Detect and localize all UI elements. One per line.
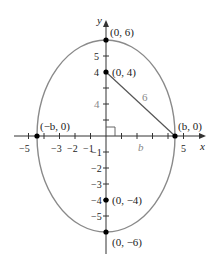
x-axis-label: x — [199, 140, 205, 152]
vertical-leg-label: 4 — [94, 98, 100, 110]
point-label-neg-b-0: (−b, 0) — [40, 120, 70, 133]
x-tick-label: −5 — [19, 143, 30, 154]
y-tick-label: −1 — [91, 147, 102, 158]
y-tick-label: −3 — [91, 179, 102, 190]
x-tick-label: 5 — [181, 143, 186, 154]
y-tick-label: −2 — [91, 163, 102, 174]
hypotenuse-label: 6 — [142, 91, 148, 103]
point-label-0-6: (0, 6) — [110, 26, 134, 39]
y-tick-label: 4 — [94, 67, 99, 78]
x-tick-label: −2 — [67, 143, 78, 154]
point-label-0-4: (0, 4) — [112, 66, 136, 79]
right-angle-marker — [106, 127, 115, 136]
y-tick-label: 5 — [94, 51, 99, 62]
point-label-0-neg6: (0, −6) — [112, 236, 142, 249]
point-label-b-0: (b, 0) — [178, 120, 202, 133]
x-axis-arrow-icon — [199, 133, 206, 139]
x-tick-label: −3 — [51, 143, 62, 154]
y-tick-label: −5 — [91, 211, 102, 222]
horizontal-leg-label: b — [138, 141, 144, 153]
ellipse-diagram: y x −5 −3 −2 −1 5 5 4 −1 −2 −3 −4 −5 (0,… — [0, 0, 223, 259]
y-axis-label: y — [96, 14, 102, 26]
y-tick-label: −4 — [91, 195, 102, 206]
hypotenuse-segment — [106, 72, 175, 136]
y-axis-arrow-icon — [103, 20, 109, 27]
point-label-0-neg4: (0, −4) — [112, 194, 142, 207]
